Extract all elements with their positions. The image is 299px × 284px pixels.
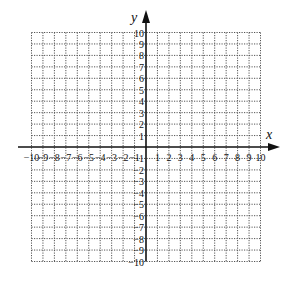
y-tick-label: −4 <box>133 188 144 199</box>
x-tick-label: −6 <box>72 152 83 163</box>
x-tick-label: −4 <box>95 152 106 163</box>
y-tick-label: 7 <box>139 62 144 73</box>
x-axis-arrow-icon <box>268 143 280 151</box>
x-tick-label: 7 <box>224 152 229 163</box>
y-tick-label: 6 <box>139 73 144 84</box>
x-tick-label: −8 <box>49 152 60 163</box>
y-axis-arrow-icon <box>142 10 150 23</box>
x-tick-labels: −10−9−8−7−6−5−4−3−2−112345678910 <box>24 152 266 163</box>
y-tick-label: 3 <box>139 108 144 119</box>
y-tick-label: 9 <box>139 39 144 50</box>
x-tick-label: 5 <box>201 152 206 163</box>
x-tick-label: 3 <box>178 152 183 163</box>
x-tick-label: −5 <box>83 152 94 163</box>
y-tick-label: 10 <box>134 28 144 39</box>
coordinate-plane: −10−9−8−7−6−5−4−3−2−112345678910 1098765… <box>0 0 299 284</box>
y-axis-label: y <box>129 10 138 25</box>
y-tick-label: −1 <box>133 153 144 164</box>
y-tick-label: 8 <box>139 50 144 61</box>
y-tick-label: −5 <box>133 199 144 210</box>
y-tick-label: −9 <box>133 245 144 256</box>
x-axis-label: x <box>265 127 273 142</box>
y-tick-label: −2 <box>133 165 144 176</box>
x-tick-label: −2 <box>118 152 129 163</box>
x-tick-label: −9 <box>38 152 49 163</box>
y-tick-label: −8 <box>133 234 144 245</box>
x-tick-label: 2 <box>166 152 171 163</box>
x-tick-label: 9 <box>247 152 252 163</box>
y-tick-label: 5 <box>139 85 144 96</box>
x-tick-label: 6 <box>212 152 217 163</box>
y-tick-label: −6 <box>133 211 144 222</box>
x-tick-label: −7 <box>61 152 72 163</box>
y-tick-label: 2 <box>139 119 144 130</box>
x-tick-label: 4 <box>189 152 194 163</box>
x-tick-label: 1 <box>155 152 160 163</box>
x-tick-label: 8 <box>235 152 240 163</box>
y-tick-label: 4 <box>139 96 144 107</box>
y-tick-label: −10 <box>128 257 144 268</box>
y-tick-label: −3 <box>133 176 144 187</box>
y-tick-label: −7 <box>133 222 144 233</box>
x-tick-label: 10 <box>256 152 266 163</box>
y-tick-label: 1 <box>139 131 144 142</box>
x-tick-label: −3 <box>106 152 117 163</box>
